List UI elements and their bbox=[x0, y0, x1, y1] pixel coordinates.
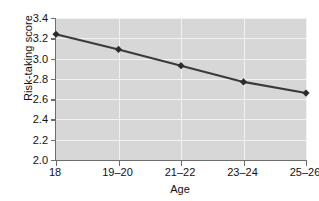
x-axis-tick-label: 18 bbox=[25, 166, 85, 178]
x-axis-tick-label: 19–20 bbox=[88, 166, 148, 178]
data-point-marker bbox=[302, 89, 309, 96]
x-axis-tick-label: 25–26 bbox=[275, 166, 319, 178]
data-layer bbox=[56, 18, 306, 160]
x-axis-tick-label: 23–24 bbox=[213, 166, 273, 178]
data-point-marker bbox=[115, 46, 122, 53]
y-axis-tick-label: 2.2 bbox=[18, 134, 48, 146]
y-axis-tick-label: 3.4 bbox=[18, 12, 48, 24]
y-axis-tick-label: 3.2 bbox=[18, 32, 48, 44]
x-axis-tick-label: 21–22 bbox=[150, 166, 210, 178]
data-point-marker bbox=[240, 78, 247, 85]
data-point-marker bbox=[52, 31, 59, 38]
y-axis-tick-label: 2.0 bbox=[18, 154, 48, 166]
x-axis-tick-labels: 1819–2021–2223–2425–26 bbox=[55, 166, 305, 182]
vertical-gridline bbox=[306, 18, 307, 160]
y-axis-tick-label: 2.4 bbox=[18, 113, 48, 125]
y-axis-tick-label: 3.0 bbox=[18, 53, 48, 65]
line-series bbox=[56, 18, 306, 160]
data-point-marker bbox=[177, 62, 184, 69]
y-axis-tick-label: 2.6 bbox=[18, 93, 48, 105]
plot-area bbox=[55, 18, 306, 161]
y-axis-tick-label: 2.8 bbox=[18, 73, 48, 85]
chart-figure: Risk-taking score 2.02.22.42.62.83.03.23… bbox=[0, 0, 319, 201]
x-axis-title: Age bbox=[55, 183, 305, 195]
y-axis-tick-labels: 2.02.22.42.62.83.03.23.4 bbox=[18, 18, 48, 160]
